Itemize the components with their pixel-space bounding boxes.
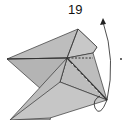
origami-figure bbox=[0, 0, 123, 120]
arrowhead-icon bbox=[100, 18, 106, 25]
dot-marker bbox=[120, 58, 122, 60]
origami-diagram: 19 bbox=[0, 0, 123, 120]
